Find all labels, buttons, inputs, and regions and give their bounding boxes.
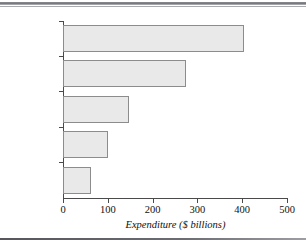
y-tick-mark xyxy=(59,56,63,57)
top-rule-thin xyxy=(0,6,306,7)
x-tick-mark xyxy=(108,199,109,203)
x-axis-ticks: 0 100 200 300 400 500 xyxy=(63,199,288,219)
x-tick-label-400: 400 xyxy=(222,204,262,215)
x-axis-title: Expenditure ($ billions) xyxy=(63,219,288,230)
y-tick-mark xyxy=(59,21,63,22)
x-tick-label-200: 200 xyxy=(133,204,173,215)
top-rule-thick xyxy=(0,2,306,5)
x-tick-mark xyxy=(242,199,243,203)
bar-grants[interactable] xyxy=(63,131,108,158)
x-tick-mark xyxy=(287,199,288,203)
plot-area: Benefits to individuals Defense Interest… xyxy=(63,21,287,198)
x-tick-label-300: 300 xyxy=(177,204,217,215)
x-tick-label-0: 0 xyxy=(43,204,83,215)
bar-other[interactable] xyxy=(63,167,91,194)
x-tick-mark xyxy=(63,199,64,203)
x-tick-label-100: 100 xyxy=(88,204,128,215)
bar-benefits-to-individuals[interactable] xyxy=(63,25,244,52)
bottom-rule xyxy=(0,238,306,240)
bar-defense[interactable] xyxy=(63,60,186,87)
y-tick-mark xyxy=(59,91,63,92)
y-tick-mark xyxy=(59,127,63,128)
bar-chart: Benefits to individuals Defense Interest… xyxy=(0,9,306,237)
bar-interest[interactable] xyxy=(63,96,129,123)
x-tick-mark xyxy=(153,199,154,203)
x-tick-label-500: 500 xyxy=(267,204,306,215)
y-tick-mark xyxy=(59,162,63,163)
x-tick-mark xyxy=(197,199,198,203)
